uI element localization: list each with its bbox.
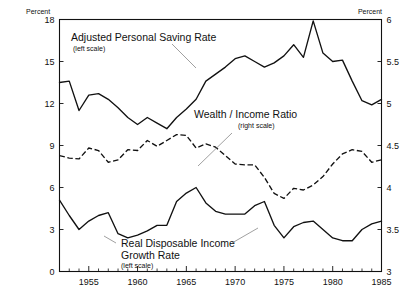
annotation-saving-rate-scale: (left scale) bbox=[73, 45, 105, 53]
chart-container: Percent Percent 0369121518 33.544.555.56… bbox=[0, 0, 408, 296]
series-line-2 bbox=[60, 188, 382, 241]
annotation-income-growth-label2: Growth Rate bbox=[121, 249, 180, 261]
right-tick-label: 4.5 bbox=[387, 141, 400, 151]
x-axis-tick-labels: 1955196019651970197519801985 bbox=[79, 277, 392, 287]
right-tick-label: 3.5 bbox=[387, 225, 400, 235]
x-tick-label: 1965 bbox=[176, 277, 196, 287]
x-tick-label: 1985 bbox=[371, 277, 391, 287]
plot-frame bbox=[60, 20, 382, 272]
right-tick-label: 4 bbox=[387, 183, 392, 193]
right-tick-label: 3 bbox=[387, 267, 392, 277]
annotation-income-growth-label: Real Disposable Income bbox=[121, 237, 235, 249]
annotation-saving-rate: Adjusted Personal Saving Rate (left scal… bbox=[71, 31, 216, 68]
left-tick-label: 15 bbox=[44, 57, 54, 67]
annotation-wealth-ratio-scale: (right scale) bbox=[238, 122, 275, 130]
left-axis-ticks bbox=[60, 20, 64, 272]
right-tick-label: 6 bbox=[387, 15, 392, 25]
x-tick-label: 1955 bbox=[79, 277, 99, 287]
left-tick-label: 9 bbox=[49, 141, 54, 151]
left-tick-label: 12 bbox=[44, 99, 54, 109]
x-tick-label: 1980 bbox=[323, 277, 343, 287]
right-tick-label: 5.5 bbox=[387, 57, 400, 67]
left-tick-label: 6 bbox=[49, 183, 54, 193]
annotation-income-growth-leader2 bbox=[104, 236, 116, 243]
annotation-saving-rate-leader bbox=[172, 44, 196, 68]
right-tick-label: 5 bbox=[387, 99, 392, 109]
left-tick-label: 0 bbox=[49, 267, 54, 277]
x-axis-minor-ticks bbox=[69, 266, 371, 272]
annotation-income-growth-leader bbox=[232, 228, 258, 243]
x-tick-label: 1975 bbox=[274, 277, 294, 287]
annotation-income-growth-scale: (left scale) bbox=[121, 262, 153, 270]
right-axis-tick-labels: 33.544.555.56 bbox=[387, 15, 400, 277]
x-tick-label: 1970 bbox=[225, 277, 245, 287]
x-tick-label: 1960 bbox=[128, 277, 148, 287]
left-tick-label: 3 bbox=[49, 225, 54, 235]
left-tick-label: 18 bbox=[44, 15, 54, 25]
annotation-income-growth: Real Disposable Income Growth Rate (left… bbox=[104, 228, 258, 270]
right-axis-ticks bbox=[378, 20, 382, 272]
annotation-saving-rate-label: Adjusted Personal Saving Rate bbox=[71, 31, 216, 43]
annotation-wealth-ratio-leader bbox=[198, 133, 232, 166]
right-axis-unit-label: Percent bbox=[358, 8, 382, 15]
annotation-wealth-ratio-label: Wealth / Income Ratio bbox=[194, 108, 297, 120]
annotation-wealth-ratio: Wealth / Income Ratio (right scale) bbox=[194, 108, 297, 166]
economics-line-chart: Percent Percent 0369121518 33.544.555.56… bbox=[0, 0, 408, 296]
left-axis-tick-labels: 0369121518 bbox=[44, 15, 54, 277]
data-series-group bbox=[60, 21, 382, 241]
